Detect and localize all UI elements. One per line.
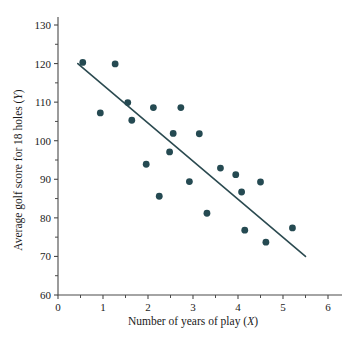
data-point xyxy=(166,149,173,156)
data-point xyxy=(289,224,296,231)
y-tick-label: 120 xyxy=(35,58,52,70)
y-tick-label: 90 xyxy=(40,173,52,185)
y-tick-label: 70 xyxy=(40,250,52,262)
y-tick-label: 100 xyxy=(35,135,52,147)
data-point xyxy=(257,179,264,186)
data-point xyxy=(241,227,248,234)
data-point xyxy=(263,239,270,246)
data-point xyxy=(128,117,135,124)
data-point xyxy=(204,210,211,217)
y-axis-title: Average golf score for 18 holes (Y) xyxy=(12,89,25,251)
y-tick-label: 130 xyxy=(35,19,52,31)
data-point xyxy=(232,171,239,178)
data-point xyxy=(217,165,224,172)
y-tick-label: 80 xyxy=(40,212,52,224)
axis-spine xyxy=(58,17,342,295)
x-tick-label: 1 xyxy=(100,301,106,313)
data-point xyxy=(97,110,104,117)
x-tick-label: 4 xyxy=(235,301,241,313)
data-point xyxy=(196,130,203,137)
data-point xyxy=(177,104,184,111)
trend-line-group xyxy=(78,64,306,257)
data-point xyxy=(238,189,245,196)
data-point xyxy=(150,104,157,111)
y-axis-group: 60708090100110120130 xyxy=(35,19,59,301)
data-point xyxy=(156,193,163,200)
data-points-group xyxy=(79,59,296,246)
x-tick-label: 5 xyxy=(280,301,286,313)
data-point xyxy=(124,99,131,106)
y-tick-label: 110 xyxy=(35,96,52,108)
plot-area: 60708090100110120130 0123456 Number of y… xyxy=(0,0,360,347)
data-point xyxy=(79,59,86,66)
regression-trend-line xyxy=(78,64,306,257)
x-tick-label: 0 xyxy=(55,301,61,313)
axis-lines-group xyxy=(58,17,342,295)
x-axis-title: Number of years of play (X) xyxy=(128,315,258,328)
data-point xyxy=(186,178,193,185)
x-tick-label: 2 xyxy=(145,301,151,313)
scatter-chart: 60708090100110120130 0123456 Number of y… xyxy=(0,0,360,347)
x-tick-label: 3 xyxy=(190,301,196,313)
x-tick-label: 6 xyxy=(325,301,331,313)
data-point xyxy=(112,61,119,68)
x-axis-group: 0123456 xyxy=(55,295,331,313)
data-point xyxy=(170,130,177,137)
y-tick-label: 60 xyxy=(40,289,52,301)
data-point xyxy=(143,161,150,168)
